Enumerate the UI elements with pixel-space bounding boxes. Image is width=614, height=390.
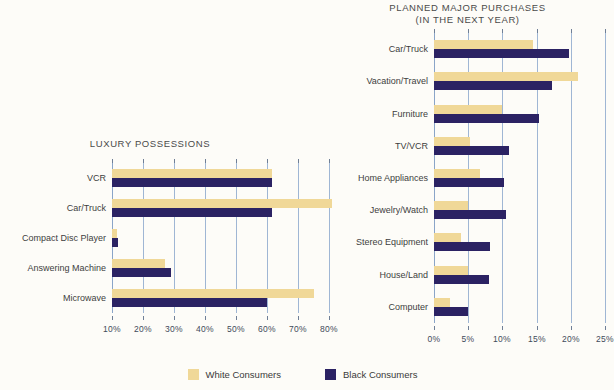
chart-title-planned-line1: PLANNED MAJOR PURCHASES bbox=[330, 2, 605, 14]
category-label: House/Land bbox=[330, 270, 428, 280]
tick-mark-top bbox=[537, 29, 538, 33]
category-label: Car/Truck bbox=[330, 44, 428, 54]
chart-title-luxury: LUXURY POSSESSIONS bbox=[0, 138, 300, 150]
bar-black-consumers bbox=[434, 275, 489, 284]
bar-white-consumers bbox=[434, 201, 468, 210]
bar-black-consumers bbox=[112, 208, 272, 217]
category-label: Stereo Equipment bbox=[330, 237, 428, 247]
tick-mark-top bbox=[174, 159, 175, 163]
category-label: Answering Machine bbox=[0, 263, 106, 273]
tick-mark-top bbox=[434, 29, 435, 33]
tick-mark-top bbox=[571, 29, 572, 33]
bar-white-consumers bbox=[434, 266, 468, 275]
chart-legend: White ConsumersBlack Consumers bbox=[0, 369, 605, 380]
bar-group bbox=[434, 298, 605, 316]
bar-group bbox=[112, 259, 329, 277]
category-label: Compact Disc Player bbox=[0, 233, 106, 243]
category-label: Car/Truck bbox=[0, 203, 106, 213]
bar-group bbox=[434, 137, 605, 155]
bar-black-consumers bbox=[112, 238, 118, 247]
category-label: Computer bbox=[330, 302, 428, 312]
bar-group bbox=[434, 40, 605, 58]
tick-mark-bottom bbox=[267, 316, 268, 320]
tick-mark-bottom bbox=[571, 326, 572, 330]
x-tick-label: 0% bbox=[428, 334, 441, 344]
category-label: VCR bbox=[0, 173, 106, 183]
bar-black-consumers bbox=[112, 178, 272, 187]
tick-mark-top bbox=[112, 159, 113, 163]
tick-mark-bottom bbox=[468, 326, 469, 330]
category-label: Microwave bbox=[0, 293, 106, 303]
x-tick-label: 60% bbox=[258, 324, 276, 334]
tick-mark-top bbox=[468, 29, 469, 33]
bar-white-consumers bbox=[112, 259, 165, 268]
x-axis-planned: 0%5%10%15%20%25% bbox=[434, 330, 605, 344]
x-tick-label: 20% bbox=[134, 324, 152, 334]
bar-black-consumers bbox=[434, 210, 506, 219]
bar-group bbox=[112, 229, 329, 247]
bar-group bbox=[434, 266, 605, 284]
tick-mark-bottom bbox=[298, 316, 299, 320]
legend-swatch-icon bbox=[325, 369, 336, 380]
tick-mark-bottom bbox=[112, 316, 113, 320]
tick-mark-bottom bbox=[434, 326, 435, 330]
bar-black-consumers bbox=[434, 49, 569, 58]
tick-mark-top bbox=[236, 159, 237, 163]
bar-white-consumers bbox=[434, 169, 480, 178]
bar-group bbox=[434, 201, 605, 219]
legend-label: Black Consumers bbox=[343, 369, 417, 380]
x-tick-label: 40% bbox=[196, 324, 214, 334]
x-tick-label: 25% bbox=[596, 334, 614, 344]
legend-item-black-consumers[interactable]: Black Consumers bbox=[325, 369, 417, 380]
bar-white-consumers bbox=[434, 105, 502, 114]
bar-white-consumers bbox=[434, 40, 533, 49]
tick-mark-top bbox=[205, 159, 206, 163]
tick-mark-bottom bbox=[143, 316, 144, 320]
bar-group bbox=[112, 169, 329, 187]
x-tick-label: 20% bbox=[562, 334, 580, 344]
tick-mark-bottom bbox=[205, 316, 206, 320]
bar-group bbox=[434, 169, 605, 187]
tick-mark-bottom bbox=[236, 316, 237, 320]
chart-planned-major-purchases: PLANNED MAJOR PURCHASES (IN THE NEXT YEA… bbox=[330, 0, 605, 350]
x-tick-label: 5% bbox=[462, 334, 475, 344]
bar-white-consumers bbox=[112, 169, 272, 178]
category-label: Jewelry/Watch bbox=[330, 205, 428, 215]
bar-white-consumers bbox=[112, 289, 314, 298]
x-tick-label: 10% bbox=[103, 324, 121, 334]
tick-mark-top bbox=[502, 29, 503, 33]
category-label: Vacation/Travel bbox=[330, 76, 428, 86]
category-label: Furniture bbox=[330, 109, 428, 119]
x-axis-luxury: 10%20%30%40%50%60%70%80% bbox=[112, 320, 329, 334]
legend-item-white-consumers[interactable]: White Consumers bbox=[188, 369, 282, 380]
chart-luxury-possessions: LUXURY POSSESSIONS 10%20%30%40%50%60%70%… bbox=[0, 138, 330, 353]
tick-mark-top bbox=[298, 159, 299, 163]
bar-black-consumers bbox=[434, 178, 504, 187]
tick-mark-bottom bbox=[502, 326, 503, 330]
bar-white-consumers bbox=[112, 229, 117, 238]
bar-white-consumers bbox=[112, 199, 332, 208]
x-tick-label: 70% bbox=[289, 324, 307, 334]
tick-mark-bottom bbox=[537, 326, 538, 330]
category-label: Home Appliances bbox=[330, 173, 428, 183]
x-tick-label: 30% bbox=[165, 324, 183, 334]
bar-group bbox=[434, 105, 605, 123]
bar-group bbox=[112, 289, 329, 307]
plot-area-planned bbox=[434, 33, 605, 323]
tick-mark-top bbox=[143, 159, 144, 163]
bar-white-consumers bbox=[434, 233, 461, 242]
tick-mark-top bbox=[267, 159, 268, 163]
tick-mark-bottom bbox=[174, 316, 175, 320]
bar-white-consumers bbox=[434, 72, 578, 81]
bar-group bbox=[112, 199, 329, 217]
bar-black-consumers bbox=[434, 242, 490, 251]
bar-black-consumers bbox=[434, 146, 509, 155]
bar-black-consumers bbox=[112, 298, 267, 307]
bar-white-consumers bbox=[434, 298, 450, 307]
plot-area-luxury bbox=[112, 163, 329, 313]
x-tick-label: 50% bbox=[227, 324, 245, 334]
category-label: TV/VCR bbox=[330, 141, 428, 151]
bar-group bbox=[434, 233, 605, 251]
legend-label: White Consumers bbox=[206, 369, 282, 380]
bar-group bbox=[434, 72, 605, 90]
